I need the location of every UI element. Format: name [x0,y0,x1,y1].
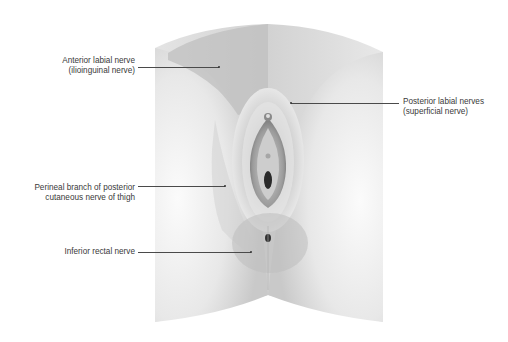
leader-dot-posterior-labial [290,102,292,104]
label-posterior-labial-nerves: Posterior labial nerves (superficial ner… [403,97,484,117]
leader-line-perineal-branch [138,186,225,187]
label-inferior-rectal-nerve: Inferior rectal nerve [20,247,135,257]
leader-line-posterior-labial [291,103,399,104]
inferior-rectal-region [232,213,308,273]
label-perineal-branch: Perineal branch of posterior cutaneous n… [10,183,135,203]
leader-line-inferior-rectal [138,252,251,253]
leader-dot-anterior-labial [218,66,220,68]
leader-dot-perineal-branch [224,185,226,187]
anatomical-illustration [0,0,508,342]
leader-dot-inferior-rectal [250,251,252,253]
leader-line-anterior-labial [138,67,219,68]
label-anterior-labial-nerve: Anterior labial nerve (ilioinguinal nerv… [20,56,135,76]
